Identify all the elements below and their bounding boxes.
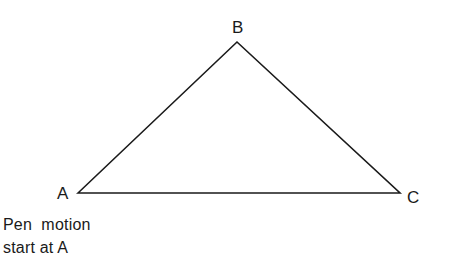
vertex-label-c: C <box>407 188 419 207</box>
caption-line-1: Pen motion <box>3 213 91 236</box>
vertex-label-b: B <box>232 18 243 37</box>
caption-line-2: start at A <box>3 236 91 259</box>
pen-motion-caption: Pen motion start at A <box>3 213 91 259</box>
vertex-label-a: A <box>57 184 69 203</box>
triangle-abc <box>78 42 400 193</box>
